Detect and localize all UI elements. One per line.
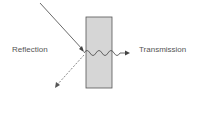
reflected-ray — [55, 55, 84, 88]
transmission-label: Transmission — [139, 45, 186, 54]
reflection-label: Reflection — [12, 45, 48, 54]
diagram-canvas — [0, 0, 200, 119]
